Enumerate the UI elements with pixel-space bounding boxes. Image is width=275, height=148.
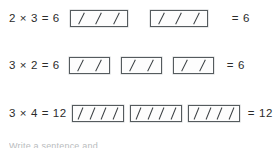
- group-boxes: [69, 57, 225, 74]
- tally-marks: [191, 107, 237, 120]
- tally-mark-icon: [78, 107, 84, 119]
- equation-row: 2 × 3 = 6 = 6: [0, 4, 275, 32]
- tally-mark-icon: [95, 59, 102, 71]
- tally-marks: [133, 107, 179, 120]
- tally-mark-icon: [77, 59, 84, 71]
- tally-mark-icon: [170, 107, 176, 119]
- tally-mark-icon: [147, 59, 154, 71]
- tally-mark-icon: [199, 59, 206, 71]
- worksheet-canvas: 2 × 3 = 6 = 6 3 × 2 = 6: [0, 0, 275, 148]
- group-box: [173, 57, 214, 74]
- tally-mark-icon: [194, 107, 200, 119]
- tally-marks: [153, 12, 205, 25]
- tally-mark-icon: [175, 12, 182, 24]
- group-box: [72, 105, 124, 122]
- tally-mark-icon: [95, 12, 102, 24]
- group-box: [69, 57, 110, 74]
- tally-marks: [176, 59, 211, 72]
- equation-row: 3 × 4 = 12: [0, 99, 275, 127]
- tally-marks: [124, 59, 159, 72]
- tally-mark-icon: [147, 107, 153, 119]
- group-box: [130, 105, 182, 122]
- tally-marks: [75, 107, 121, 120]
- tally-mark-icon: [129, 59, 136, 71]
- group-boxes: [72, 105, 246, 122]
- tally-mark-icon: [228, 107, 234, 119]
- equation-text: 3 × 4 = 12: [0, 107, 67, 119]
- group-box: [121, 57, 162, 74]
- equation-text: 3 × 2 = 6: [0, 59, 60, 71]
- row-total: = 6: [232, 12, 250, 24]
- tally-mark-icon: [89, 107, 95, 119]
- group-boxes: [70, 10, 230, 27]
- tally-mark-icon: [136, 107, 142, 119]
- tally-marks: [72, 59, 107, 72]
- group-box: [70, 10, 128, 27]
- tally-mark-icon: [205, 107, 211, 119]
- footer-note: Write a sentence and: [9, 141, 98, 148]
- tally-mark-icon: [158, 12, 165, 24]
- tally-mark-icon: [101, 107, 107, 119]
- tally-mark-icon: [193, 12, 200, 24]
- tally-mark-icon: [181, 59, 188, 71]
- tally-mark-icon: [217, 107, 223, 119]
- row-total: = 6: [227, 59, 245, 71]
- tally-mark-icon: [159, 107, 165, 119]
- tally-mark-icon: [112, 107, 118, 119]
- tally-mark-icon: [113, 12, 120, 24]
- equation-row: 3 × 2 = 6 = 6: [0, 51, 275, 79]
- group-box: [150, 10, 208, 27]
- row-total: = 12: [248, 107, 273, 119]
- tally-marks: [73, 12, 125, 25]
- equation-text: 2 × 3 = 6: [0, 12, 60, 24]
- group-box: [188, 105, 240, 122]
- tally-mark-icon: [78, 12, 85, 24]
